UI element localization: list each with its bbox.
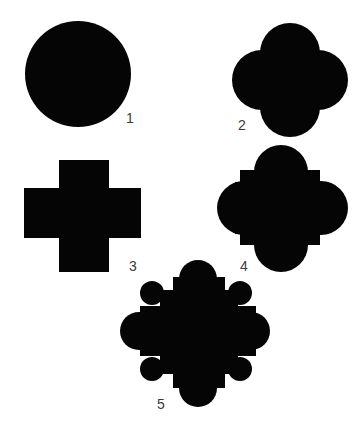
shape-label-1: 1 <box>126 111 134 125</box>
shape-3-cross <box>24 160 141 272</box>
shape-label-4: 4 <box>240 259 248 273</box>
shape-4-lobed-square <box>217 145 348 272</box>
shapes-figure <box>0 0 363 435</box>
shape-label-3: 3 <box>129 259 137 273</box>
shape-1-circle <box>25 21 131 127</box>
shape-5-ornate-cross <box>120 260 270 407</box>
shape-label-2: 2 <box>238 118 246 132</box>
shape-label-5: 5 <box>157 397 165 411</box>
shape-2-quatrefoil <box>232 23 348 137</box>
